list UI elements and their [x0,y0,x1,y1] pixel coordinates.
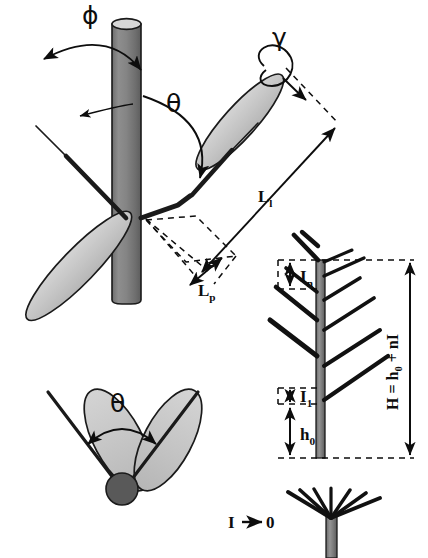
panel-bottom-right-whorl: I 0 [228,488,380,558]
dashed-petiole-edge [214,256,236,284]
plant-architecture-diagram: ϕ θ γ Ll [0,0,428,558]
main-stem [112,19,141,304]
limit-note-symbol: I [228,513,235,532]
leaf-length-symbol: L [258,187,269,206]
internode-n-subscript: n [307,277,314,289]
right-leaf-petiole [141,196,190,218]
leaf-length-label: Ll [258,187,272,209]
total-height-symbol: H = h [384,371,401,410]
total-height-label: H = h0 + nI [384,334,404,410]
dashed-base-lower [146,219,208,271]
left-leaf-midrib-thin [36,126,66,156]
dashed-tip-to-corner [286,68,338,123]
gamma-label: γ [272,23,287,52]
shoot-stem [316,260,325,458]
whorl-stem [326,516,337,558]
limit-value-label: 0 [266,513,275,532]
whorl-branches [288,488,380,518]
petiole-length-subscript: p [209,291,215,303]
shoot-branches [270,232,388,400]
panel-lower-left-top-view: θ [48,379,215,505]
theta-lower-label: θ [110,389,125,418]
internode-1-label: I1 [300,387,313,409]
base-height-subscript: 0 [309,435,315,447]
topview-node [106,473,138,505]
panel-right-shoot-architecture: In I1 h0 H = h0 + nI [270,232,414,458]
stem-top-ellipse [112,19,141,30]
branch-6-right [324,356,388,400]
limit-note-label: I [228,513,235,532]
total-height-tail: + nI [384,334,401,366]
theta-upper-label: θ [166,89,181,118]
phi-label: ϕ [82,1,99,30]
gamma-rotation-arrow [283,78,306,100]
base-height-label: h0 [300,425,315,447]
petiole-length-label: Lp [198,281,216,303]
branch-5-right [324,330,380,366]
branch-3-right [324,278,360,300]
leaf-length-subscript: l [269,197,272,209]
branch-1-left [294,235,318,260]
branch-4-right [324,298,374,330]
figure-root: ϕ θ γ Ll [0,0,428,558]
internode-n-label: In [300,267,314,289]
branch-3-left [276,287,317,320]
petiole-length-symbol: L [198,281,209,300]
internode-1-subscript: 1 [307,397,313,409]
dashed-petiole-box [146,216,236,262]
branch-4-left [270,320,317,356]
